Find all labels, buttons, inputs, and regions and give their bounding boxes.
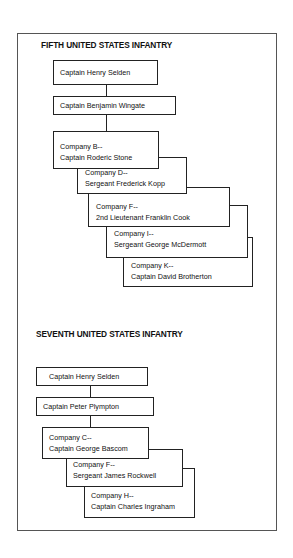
company-leader: Captain Charles Ingraham (91, 501, 194, 512)
commander-name: Captain Henry Selden (49, 371, 119, 382)
fifth-commander-2: Captain Benjamin Wingate (53, 96, 176, 115)
seventh-company-c-box: Company C-- Captain George Bascom (42, 427, 149, 459)
company-label: Company K-- (131, 260, 252, 271)
commander-name: Captain Henry Selden (60, 67, 130, 78)
company-leader: Captain Roderic Stone (60, 152, 158, 163)
company-leader: Captain George Bascom (49, 443, 148, 454)
seventh-commander-1: Captain Henry Selden (36, 367, 148, 386)
connector-line (106, 115, 107, 131)
company-leader: Captain David Brotherton (131, 271, 252, 282)
company-label: Company H-- (91, 490, 194, 501)
seventh-commander-2: Captain Peter Plympton (36, 397, 154, 416)
company-label: Company F-- (73, 459, 182, 470)
fifth-infantry-title: FIFTH UNITED STATES INFANTRY (41, 40, 172, 50)
connector-line (106, 85, 107, 96)
company-leader: Sergeant James Rockwell (73, 470, 182, 481)
company-leader: Sergeant George McDermott (114, 239, 247, 250)
fifth-commander-1: Captain Henry Selden (53, 60, 158, 85)
commander-name: Captain Benjamin Wingate (60, 100, 145, 111)
connector-line (90, 386, 91, 397)
company-label: Company F-- (96, 201, 229, 212)
company-leader: 2nd Lieutenant Franklin Cook (96, 212, 229, 223)
commander-name: Captain Peter Plympton (43, 401, 119, 412)
company-leader: Sergeant Frederick Kopp (85, 178, 186, 189)
company-label: Company B-- (60, 141, 158, 152)
connector-line (90, 416, 91, 427)
company-label: Company C-- (49, 432, 148, 443)
company-label: Company I-- (114, 228, 247, 239)
seventh-infantry-title: SEVENTH UNITED STATES INFANTRY (36, 329, 183, 339)
fifth-company-b-box: Company B-- Captain Roderic Stone (53, 131, 159, 169)
